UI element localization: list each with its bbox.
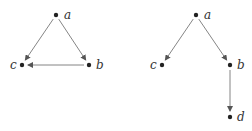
node-label-a: a	[64, 8, 71, 22]
node-label-c: c	[150, 58, 157, 72]
node-label-b: b	[237, 58, 245, 72]
node-b	[228, 63, 232, 67]
edge-a-c	[25, 19, 53, 60]
node-b	[87, 63, 91, 67]
node-label-c: c	[10, 58, 17, 72]
edge-a-b	[59, 19, 86, 60]
left-graph: abc	[10, 8, 104, 72]
node-c	[160, 63, 164, 67]
node-label-a: a	[204, 8, 211, 22]
right-graph: acbd	[150, 8, 245, 124]
node-label-d: d	[237, 110, 245, 124]
edge-a-b	[199, 19, 227, 60]
node-label-b: b	[96, 58, 104, 72]
node-c	[20, 63, 24, 67]
node-a	[194, 13, 198, 17]
digraph-figure: abcacbd	[0, 0, 252, 131]
node-d	[228, 115, 232, 119]
edge-a-c	[165, 19, 193, 60]
node-a	[54, 13, 58, 17]
